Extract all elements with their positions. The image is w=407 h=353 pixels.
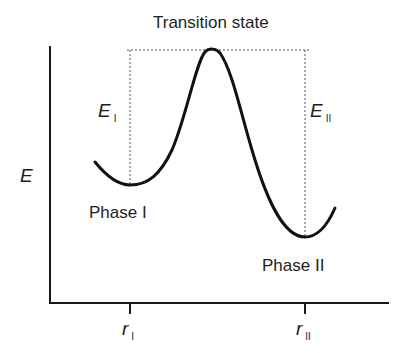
energy-label-1: EI	[98, 100, 116, 122]
y-axis-label: E	[20, 165, 33, 187]
phase-1-label: Phase I	[89, 203, 147, 223]
energy-label-2: EII	[310, 100, 331, 122]
x-tick-label-r1: rI	[122, 318, 134, 340]
x-tick-label-r2: rII	[296, 318, 311, 340]
energy-diagram	[0, 0, 407, 353]
phase-2-label: Phase II	[262, 256, 324, 276]
transition-state-label: Transition state	[153, 13, 269, 33]
